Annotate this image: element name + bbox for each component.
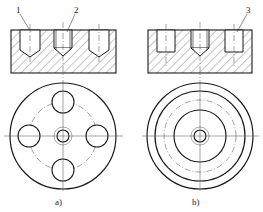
section-view-a: 1 2 xyxy=(11,5,116,78)
section-view-b: 3 xyxy=(148,5,252,78)
caption-a: a) xyxy=(55,197,62,207)
callout-2: 2 xyxy=(74,5,79,15)
caption-b: b) xyxy=(192,197,200,207)
callout-3: 3 xyxy=(246,5,251,15)
plan-view-b: b) xyxy=(142,80,259,207)
technical-drawing: 1 2 3 a) xyxy=(0,0,263,212)
plan-view-a: a) xyxy=(4,80,123,207)
callout-1: 1 xyxy=(16,5,21,15)
